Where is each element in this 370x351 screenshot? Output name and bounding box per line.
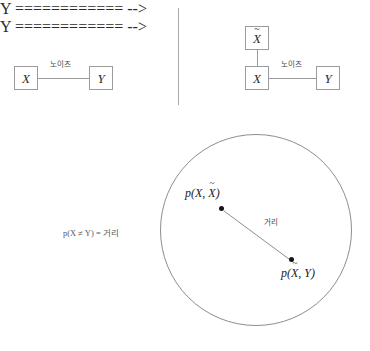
point-label-p-x-xtilde-second: X bbox=[208, 186, 215, 201]
metric-equation-label: p(X ≠ Y) = 거리 bbox=[63, 226, 119, 238]
right-edge-x-to-y bbox=[269, 78, 317, 79]
point-dot-p-x-xtilde bbox=[219, 206, 224, 211]
left-edge-x-to-y bbox=[38, 78, 90, 79]
right-edge-noise-label: 노이즈 bbox=[281, 58, 303, 69]
point-label-p-x-xtilde-suffix: ) bbox=[216, 186, 220, 200]
right-node-y-label: Y bbox=[324, 72, 331, 85]
point-label-p-xtilde-y-first: X bbox=[291, 266, 298, 281]
figure-canvas: Y ============ --> 노이즈 X Y Y ===========… bbox=[0, 0, 370, 351]
point-label-p-xtilde-y-suffix: ) bbox=[311, 266, 315, 280]
right-node-x-tilde-label: X bbox=[253, 32, 261, 45]
right-node-x-tilde: X bbox=[245, 26, 269, 50]
point-label-p-xtilde-y-prefix: p( bbox=[281, 266, 291, 280]
point-label-p-xtilde-y: p(X, Y) bbox=[281, 266, 315, 281]
left-node-y: Y bbox=[89, 66, 113, 90]
right-edge-xtilde-to-x bbox=[257, 50, 258, 67]
point-label-p-x-xtilde-prefix: p( bbox=[185, 186, 195, 200]
right-node-x: X bbox=[245, 66, 269, 90]
right-node-y: Y bbox=[316, 66, 340, 90]
right-node-x-label: X bbox=[253, 72, 261, 85]
panel-divider bbox=[178, 8, 179, 105]
left-node-x-label: X bbox=[22, 72, 30, 85]
left-node-x: X bbox=[14, 66, 38, 90]
left-node-y-label: Y bbox=[97, 72, 104, 85]
point-label-p-x-xtilde: p(X, X) bbox=[185, 186, 220, 201]
metric-space-circle bbox=[160, 134, 352, 326]
left-edge-noise-label: 노이즈 bbox=[50, 58, 72, 69]
distance-label: 거리 bbox=[264, 216, 278, 227]
